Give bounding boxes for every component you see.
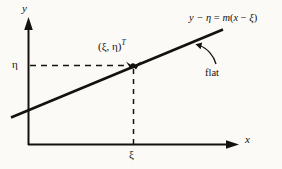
x-axis-label: x: [245, 134, 250, 145]
point-marker-dot: [130, 63, 135, 68]
diagram-canvas: [0, 0, 282, 169]
point-label-superscript-t: T: [122, 38, 126, 47]
flat-callout-arrowhead: [196, 42, 203, 49]
point-label: (ξ, η)T: [98, 39, 126, 52]
x-axis-arrowhead: [226, 140, 239, 149]
y-axis-label: y: [22, 3, 27, 14]
equation-minus: −: [238, 12, 249, 23]
flat-callout-arrow: [200, 46, 217, 65]
equation-paren-close: ): [254, 12, 258, 23]
x-tick-label-xi: ξ: [129, 149, 134, 160]
y-tick-label-eta: η: [12, 59, 18, 70]
equation-lhs: y − η: [189, 12, 211, 23]
flat-annotation-label: flat: [205, 68, 219, 79]
equation-slope-m: m: [222, 12, 230, 23]
equation-equals: =: [211, 12, 222, 23]
line-equation-label: y − η = m(x − ξ): [189, 13, 257, 24]
y-axis-arrowhead: [24, 17, 33, 30]
line-equation-diagram: y x η ξ (ξ, η)T y − η = m(x − ξ) flat: [0, 0, 282, 169]
